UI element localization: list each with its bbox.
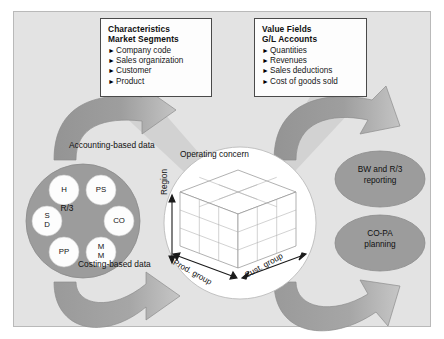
list-item: ►Company code xyxy=(108,46,204,56)
list-item-label: Revenues xyxy=(270,56,307,66)
bullet-icon: ► xyxy=(108,56,116,66)
value-fields-heading-2: G/L Accounts xyxy=(262,34,359,44)
characteristics-box: Characteristics Market Segments ►Company… xyxy=(100,18,212,97)
list-item-label: Sales deductions xyxy=(270,66,332,76)
list-item-label: Company code xyxy=(116,46,171,56)
output-label-copa-line1: CO-PA xyxy=(337,228,423,239)
characteristics-heading-1: Characteristics xyxy=(108,24,204,34)
bullet-icon: ► xyxy=(108,46,116,56)
bullet-icon: ► xyxy=(108,77,116,87)
list-item: ►Cost of goods sold xyxy=(262,77,359,87)
list-item-label: Sales organization xyxy=(116,56,183,66)
list-item: ►Quantities xyxy=(262,46,359,56)
bullet-icon: ► xyxy=(262,66,270,76)
value-fields-list: ►Quantities ►Revenues ►Sales deductions … xyxy=(262,46,359,88)
list-item: ►Sales organization xyxy=(108,56,204,66)
characteristics-heading-2: Market Segments xyxy=(108,34,204,44)
list-item-label: Customer xyxy=(116,66,152,76)
list-item: ►Sales deductions xyxy=(262,66,359,76)
output-label-copa-planning: CO-PA planning xyxy=(337,228,423,249)
value-fields-heading-1: Value Fields xyxy=(262,24,359,34)
list-item: ►Customer xyxy=(108,66,204,76)
bullet-icon: ► xyxy=(262,46,270,56)
list-item: ►Product xyxy=(108,77,204,87)
diagram-canvas: H PS S D CO PP M M R/3 xyxy=(0,0,444,339)
list-item: ►Revenues xyxy=(262,56,359,66)
list-item-label: Cost of goods sold xyxy=(270,77,338,87)
output-label-bw-line1: BW and R/3 xyxy=(337,164,423,175)
characteristics-list: ►Company code ►Sales organization ►Custo… xyxy=(108,46,204,88)
output-label-copa-line2: planning xyxy=(337,239,423,250)
bullet-icon: ► xyxy=(108,66,116,76)
bullet-icon: ► xyxy=(262,56,270,66)
output-label-bw-reporting: BW and R/3 reporting xyxy=(337,164,423,185)
output-label-bw-line2: reporting xyxy=(337,175,423,186)
list-item-label: Product xyxy=(116,77,144,87)
bullet-icon: ► xyxy=(262,77,270,87)
flow-label-accounting-based-data: Accounting-based data xyxy=(69,140,155,150)
flow-label-costing-based-data: Costing-based data xyxy=(78,259,151,269)
value-fields-box: Value Fields G/L Accounts ►Quantities ►R… xyxy=(254,18,367,97)
list-item-label: Quantities xyxy=(270,46,307,56)
